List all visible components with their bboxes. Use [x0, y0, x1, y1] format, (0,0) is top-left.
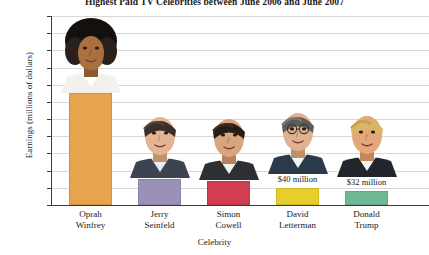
- bar: [345, 191, 388, 205]
- portrait-oprah-winfrey: [60, 18, 122, 93]
- x-axis-tick-label: JerrySeinfeld: [120, 209, 200, 230]
- plot-area: $40 million$32 million: [51, 16, 428, 205]
- bar: [207, 181, 250, 205]
- y-axis-label: Earnings (millions of dollars): [24, 30, 34, 180]
- y-axis-tick: [47, 50, 51, 51]
- x-axis-tick-label: SimonCowell: [189, 209, 269, 230]
- x-axis-tick-label: DavidLetterman: [258, 209, 338, 230]
- x-axis-tick-label-line: Trump: [327, 220, 407, 231]
- x-axis-tick-label-line: Cowell: [189, 220, 269, 231]
- y-axis-line: [51, 16, 52, 206]
- y-axis-tick: [47, 102, 51, 103]
- x-axis-tick-label-line: Oprah: [51, 209, 131, 220]
- x-axis-tick-label-line: Winfrey: [51, 220, 131, 231]
- x-axis-tick-label: OprahWinfrey: [51, 209, 131, 230]
- portrait-david-letterman: [267, 104, 329, 174]
- bar-value-label: $32 million: [330, 178, 404, 187]
- y-axis-tick: [47, 136, 51, 137]
- x-axis-tick-label-line: Donald: [327, 209, 407, 220]
- y-axis-tick: [47, 33, 51, 34]
- bar: [138, 179, 181, 205]
- x-axis-tick-label-line: Seinfeld: [120, 220, 200, 231]
- y-axis-tick: [47, 119, 51, 120]
- x-axis-tick-label-line: David: [258, 209, 338, 220]
- y-axis-tick: [47, 171, 51, 172]
- chart-title: Highest Paid TV Celebrities between June…: [0, 0, 429, 8]
- y-axis-tick: [47, 85, 51, 86]
- y-axis-tick: [47, 205, 51, 206]
- gridline: [52, 16, 429, 17]
- x-axis-tick-label-line: Jerry: [120, 209, 200, 220]
- bar-chart: Highest Paid TV Celebrities between June…: [0, 0, 429, 255]
- y-axis-tick: [47, 68, 51, 69]
- x-axis-label: Celebrity: [0, 237, 429, 247]
- portrait-jerry-seinfeld: [129, 108, 191, 178]
- y-axis-tick: [47, 188, 51, 189]
- x-axis-tick-label-line: Simon: [189, 209, 269, 220]
- x-axis-line: [51, 205, 429, 206]
- bar: [276, 188, 319, 205]
- x-axis-tick-label-line: Letterman: [258, 220, 338, 231]
- portrait-donald-trump: [336, 107, 398, 177]
- bar-value-label: $40 million: [261, 175, 335, 184]
- y-axis-tick: [47, 16, 51, 17]
- bar: [69, 93, 112, 205]
- y-axis-tick: [47, 153, 51, 154]
- x-axis-tick-label: DonaldTrump: [327, 209, 407, 230]
- portrait-simon-cowell: [198, 110, 260, 180]
